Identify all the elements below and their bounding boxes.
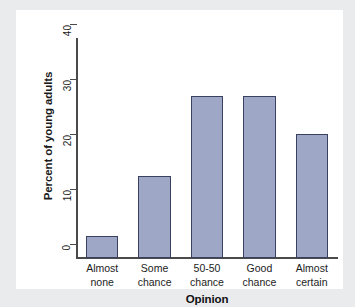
y-axis-tick: 40 [70, 24, 77, 25]
bars-container [76, 38, 338, 258]
figure-page-background: Percent of young adults 010203040 Almost… [0, 0, 355, 307]
bar-slot [138, 38, 170, 258]
x-axis-category-label: Somechance [128, 262, 180, 289]
category-label-line1: Some [128, 262, 180, 276]
category-label-line2: none [76, 276, 128, 290]
x-axis-title: Opinion [76, 293, 338, 305]
y-axis-tick-label: 10 [62, 190, 73, 201]
y-axis-tick-label: 30 [62, 80, 73, 91]
x-axis-tick-labels: AlmostnoneSomechance50-50chanceGoodchanc… [76, 262, 338, 296]
bar[interactable] [138, 176, 170, 259]
bar[interactable] [243, 96, 275, 258]
bar[interactable] [296, 134, 328, 258]
x-axis-category-label: Almostcertain [286, 262, 338, 289]
category-label-line1: Almost [76, 262, 128, 276]
bar-slot [191, 38, 223, 258]
category-label-line2: chance [128, 276, 180, 290]
x-axis-category-label: Almostnone [76, 262, 128, 289]
category-label-line2: chance [181, 276, 233, 290]
category-label-line1: Almost [286, 262, 338, 276]
bar-slot [243, 38, 275, 258]
bar-slot [86, 38, 118, 258]
category-label-line1: 50-50 [181, 262, 233, 276]
bar-slot [296, 38, 328, 258]
y-axis-title: Percent of young adults [42, 41, 54, 231]
chart-plot-area: Percent of young adults 010203040 Almost… [16, 10, 343, 289]
y-axis-tick-label: 0 [62, 245, 73, 251]
bar[interactable] [86, 236, 118, 258]
y-axis-tick-label: 40 [62, 25, 73, 36]
bar[interactable] [191, 96, 223, 258]
category-label-line2: chance [233, 276, 285, 290]
y-axis-tick-label: 20 [62, 135, 73, 146]
x-axis-category-label: Goodchance [233, 262, 285, 289]
category-label-line1: Good [233, 262, 285, 276]
x-axis-category-label: 50-50chance [181, 262, 233, 289]
category-label-line2: certain [286, 276, 338, 290]
